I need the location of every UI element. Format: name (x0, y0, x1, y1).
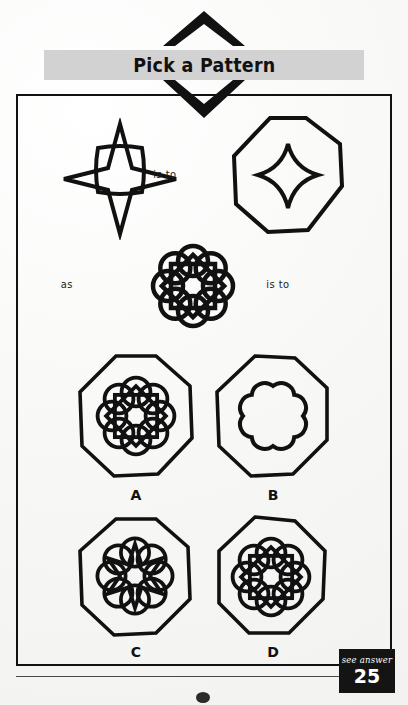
option-a-label: A (121, 487, 151, 503)
page-title: Pick a Pattern (133, 54, 275, 76)
option-a-figure[interactable] (74, 352, 198, 480)
connector-is-to-1: is to (153, 168, 176, 181)
connector-is-to-2: is to (266, 278, 289, 291)
puzzle-page: Pick a Pattern is to as (0, 0, 408, 705)
answer-page-number: 25 (354, 667, 380, 686)
option-d-label: D (258, 644, 288, 660)
chevron-down-icon (0, 78, 408, 118)
prompt-figure-octagon-concave-star (228, 112, 348, 238)
prompt-figure-rosette (143, 236, 243, 336)
option-c-label: C (121, 644, 151, 660)
see-answer-label: see answer (342, 656, 392, 665)
option-d-figure[interactable] (211, 513, 335, 641)
page-title-bar: Pick a Pattern (44, 50, 364, 80)
see-answer-badge[interactable]: see answer 25 (339, 649, 395, 693)
option-b-label: B (258, 487, 288, 503)
footer-rule (16, 676, 392, 677)
option-b-figure[interactable] (211, 352, 335, 480)
option-c-figure[interactable] (74, 513, 198, 641)
footer-mark (196, 692, 210, 703)
connector-as: as (61, 278, 73, 291)
chevron-up-icon (0, 6, 408, 48)
